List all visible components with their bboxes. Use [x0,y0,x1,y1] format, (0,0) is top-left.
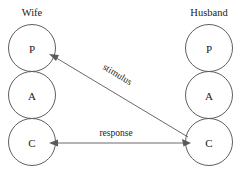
diagram-canvas: Wife Husband P A C P A C stimulus [0,0,242,182]
ego-state-letter-husband-adult: A [205,90,213,102]
column-header-husband: Husband [190,7,228,18]
ego-state-letter-wife-child: C [28,137,35,149]
ego-state-letter-husband-parent: P [206,43,212,55]
ego-state-letter-wife-parent: P [29,43,35,55]
ego-state-stack-wife: P A C [9,25,56,166]
stimulus-arrow-line [53,56,188,137]
ego-state-letter-wife-adult: A [28,90,36,102]
transaction-response: response [49,128,186,147]
column-header-wife: Wife [22,7,43,18]
ego-state-diagram: Wife Husband P A C P A C stimulus [0,0,242,182]
transaction-label-stimulus: stimulus [101,62,134,87]
ego-state-stack-husband: P A C [186,25,233,166]
transaction-label-response: response [99,128,132,138]
ego-state-letter-husband-child: C [205,137,212,149]
